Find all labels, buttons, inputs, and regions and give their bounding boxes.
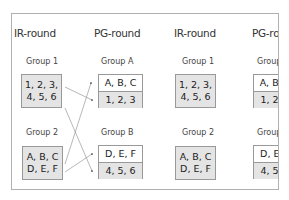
arrow-group2-to-groupB-top xyxy=(65,154,92,172)
arrows-layer xyxy=(12,14,279,190)
arrow-group2-to-groupA-top xyxy=(65,83,91,164)
diagram-frame: IR-round Group 1 1, 2, 3, 4, 5, 6 Group … xyxy=(11,13,279,190)
arrow-group1-to-groupB-bottom xyxy=(65,108,92,171)
arrow-group1-to-groupA-bottom xyxy=(65,87,92,100)
